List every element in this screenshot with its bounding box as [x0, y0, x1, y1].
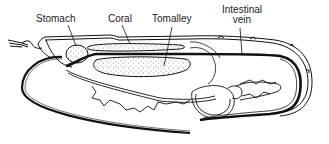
label-tomalley: Tomalley — [152, 14, 191, 24]
antennules — [8, 40, 42, 48]
lobster-anatomy-diagram: Stomach Coral Tomalley Intestinal vein — [0, 0, 329, 144]
coral-organ — [87, 44, 184, 51]
tail-structures — [192, 80, 281, 118]
body-cavity — [190, 42, 220, 84]
tomalley-organ — [94, 57, 191, 77]
label-intestinal-vein-line2: vein — [216, 15, 268, 25]
label-coral: Coral — [108, 14, 132, 24]
stomach-organ — [66, 45, 88, 63]
label-stomach: Stomach — [36, 14, 75, 24]
label-intestinal-vein: Intestinal vein — [216, 5, 268, 25]
